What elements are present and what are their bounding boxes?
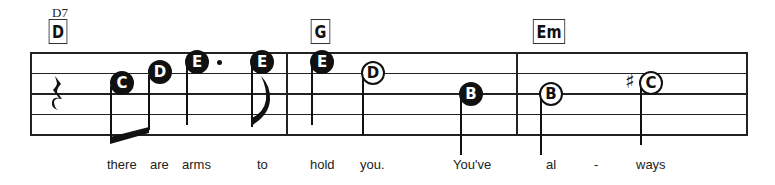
chord-box-g: G	[311, 19, 331, 44]
note-b-half: B	[539, 82, 563, 106]
sharp-icon: ♯	[625, 71, 635, 91]
chord-box-d: D	[49, 19, 68, 44]
note-e-quarter: E	[310, 50, 334, 74]
stem-c-sharp	[640, 86, 642, 145]
lyric-hyphen: -	[594, 157, 598, 172]
stem-d	[148, 75, 150, 130]
chord-box-em: Em	[533, 19, 565, 44]
barline-end	[746, 53, 748, 136]
stem-d-half	[362, 75, 364, 135]
barline-start	[30, 53, 32, 136]
note-b-quarter: B	[459, 82, 483, 106]
stem-c	[110, 86, 112, 141]
eighth-flag-icon	[250, 72, 272, 128]
quarter-rest-icon	[50, 75, 66, 113]
barline-1	[286, 53, 288, 136]
stem-e3	[311, 65, 313, 125]
barline-2	[516, 53, 518, 136]
lyric-there: there	[107, 157, 137, 172]
dot-icon	[217, 60, 222, 65]
note-c: C	[110, 71, 134, 95]
alt-chord-label: D7	[52, 6, 68, 19]
beam-icon	[108, 124, 152, 146]
note-c-sharp-half: C	[639, 71, 663, 95]
note-d: D	[148, 60, 172, 84]
stem-b2	[540, 97, 542, 155]
lyric-al: al	[546, 157, 556, 172]
lyric-are: are	[150, 157, 169, 172]
lyric-ways: ways	[636, 157, 666, 172]
lyric-arms: arms	[182, 157, 211, 172]
lyric-you: you.	[360, 157, 385, 172]
stem-b1	[460, 97, 462, 155]
lyric-to: to	[257, 157, 268, 172]
note-d-half: D	[361, 61, 385, 85]
note-e-eighth: E	[250, 50, 274, 74]
lyric-youve: You've	[453, 157, 491, 172]
lyric-hold: hold	[310, 157, 335, 172]
stem-e1	[186, 65, 188, 125]
staff-line-1	[30, 52, 748, 54]
staff-line-2	[30, 73, 748, 75]
note-e-dotted: E	[185, 50, 209, 74]
